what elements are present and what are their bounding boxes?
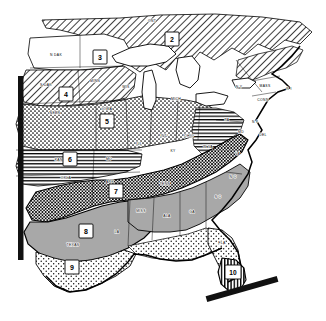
lake-michigan (142, 70, 156, 110)
state-label-mich: MICH (171, 97, 181, 101)
state-label-sc: S C (215, 195, 222, 199)
state-label-iowa: IOWA (102, 107, 113, 111)
left-edge-bar (18, 76, 24, 260)
state-label-sdak: S DAK (40, 83, 52, 87)
state-label-ohio: OHIO (184, 134, 194, 138)
state-label-mass: MASS (259, 84, 270, 88)
region-number-7[interactable]: 7 (109, 184, 123, 198)
state-label-la: LA (115, 230, 120, 234)
state-label-del: DEL (259, 133, 267, 137)
state-label-ga: GA (189, 210, 195, 214)
state-label-wva: W VA (203, 145, 213, 149)
state-label-texas: TEXAS (67, 243, 80, 247)
region-number-9[interactable]: 9 (65, 260, 79, 274)
map-svg: ONT N DAK S DAK MINN WIS MICH NEBR IOWA … (0, 0, 326, 321)
state-label-ind: IND (161, 134, 168, 138)
state-label-okla: OKLA (61, 176, 72, 180)
state-label-pa: PA (225, 118, 230, 122)
region-number-3-label: 3 (98, 54, 102, 61)
region-number-5[interactable]: 5 (100, 114, 114, 128)
region-number-4[interactable]: 4 (59, 87, 73, 101)
state-label-ont: ONT (148, 19, 156, 23)
region-number-2[interactable]: 2 (165, 32, 179, 46)
state-label-va: VA (236, 152, 241, 156)
state-label-md: MD (238, 130, 244, 134)
state-label-nc: N C (230, 175, 237, 179)
state-label-nj: N J (252, 120, 258, 124)
region-number-8[interactable]: 8 (79, 224, 93, 238)
region-number-7-label: 7 (114, 188, 118, 195)
region-number-6[interactable]: 6 (63, 152, 77, 166)
map-figure: ONT N DAK S DAK MINN WIS MICH NEBR IOWA … (0, 0, 326, 321)
state-label-ri: R I (286, 87, 291, 91)
state-label-nebr: NEBR (50, 111, 61, 115)
state-label-wis: WIS (122, 85, 130, 89)
state-label-ala: ALA (163, 214, 171, 218)
state-label-ark: ARK (106, 180, 114, 184)
region-number-10[interactable]: 10 (225, 265, 241, 279)
region-number-2-label: 2 (170, 36, 174, 43)
state-label-minn: MINN (90, 79, 100, 83)
state-label-mo: MO (106, 157, 112, 161)
state-label-miss: MISS (136, 209, 146, 213)
state-label-ny: N Y (236, 85, 243, 89)
region-number-5-label: 5 (105, 118, 109, 125)
region-number-8-label: 8 (84, 228, 88, 235)
state-label-conn: CONN (257, 98, 269, 102)
state-label-ky: KY (170, 149, 176, 153)
state-label-ill: ILL (136, 142, 142, 146)
region-number-10-label: 10 (229, 269, 237, 276)
region-number-6-label: 6 (68, 156, 72, 163)
state-label-tenn: TENN (160, 182, 171, 186)
region-number-9-label: 9 (70, 264, 74, 271)
region-number-3[interactable]: 3 (93, 50, 107, 64)
state-label-ndak: N DAK (50, 53, 63, 57)
state-label-fla: FLA (218, 241, 226, 245)
region-number-4-label: 4 (64, 91, 68, 98)
